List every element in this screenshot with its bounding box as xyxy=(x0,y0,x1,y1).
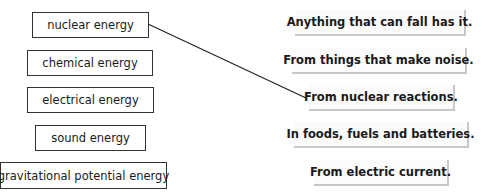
definition-things-make-noise[interactable]: From things that make noise. xyxy=(292,48,467,74)
term-gravitational-potential-energy[interactable]: gravitational potential energy xyxy=(0,162,167,189)
definition-foods-fuels-batteries[interactable]: In foods, fuels and batteries. xyxy=(294,122,469,148)
definition-anything-can-fall[interactable]: Anything that can fall has it. xyxy=(295,10,466,36)
term-electrical-energy[interactable]: electrical energy xyxy=(27,87,154,113)
definition-electric-current[interactable]: From electric current. xyxy=(314,160,449,186)
term-sound-energy[interactable]: sound energy xyxy=(35,125,146,151)
term-nuclear-energy[interactable]: nuclear energy xyxy=(32,12,149,38)
definition-nuclear-reactions[interactable]: From nuclear reactions. xyxy=(309,85,455,111)
term-chemical-energy[interactable]: chemical energy xyxy=(27,50,153,76)
